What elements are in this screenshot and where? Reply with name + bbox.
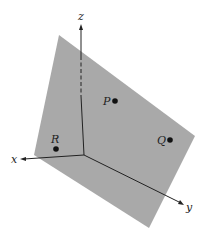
point-q-label: Q [157, 134, 166, 147]
y-axis-label: y [185, 201, 193, 214]
point-r-label: R [50, 133, 59, 146]
x-axis-label: x [11, 153, 18, 166]
diagram-canvas: z x y P Q R [0, 0, 214, 242]
z-arrow-icon [79, 24, 83, 30]
point-p-label: P [102, 95, 111, 108]
z-axis-label: z [77, 10, 84, 23]
y-arrow-icon [178, 200, 184, 205]
point-q [167, 137, 173, 143]
x-arrow-icon [20, 157, 26, 161]
point-p [112, 98, 118, 104]
point-r [53, 146, 59, 152]
plane [34, 35, 195, 228]
plane-diagram: z x y P Q R [0, 0, 214, 242]
